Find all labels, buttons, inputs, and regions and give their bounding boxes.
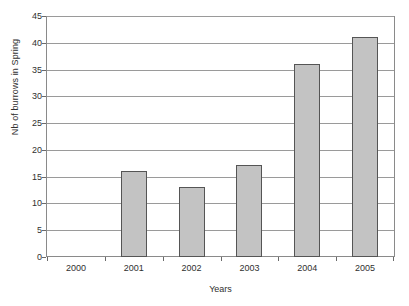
y-tick-label: 25 <box>2 118 42 128</box>
x-tick-mark <box>105 257 106 261</box>
y-tick-label: 20 <box>2 145 42 155</box>
x-tick-mark <box>336 257 337 261</box>
scan-artifact-strip <box>0 298 409 306</box>
x-tick-label-2000: 2000 <box>46 263 106 273</box>
bar-slot-2002 <box>163 17 221 257</box>
bar-2002[interactable] <box>179 187 205 257</box>
x-tick-label-2002: 2002 <box>162 263 222 273</box>
x-tick-mark <box>163 257 164 261</box>
x-tick-mark <box>47 257 48 261</box>
y-tick-mark <box>42 257 46 258</box>
x-tick-mark <box>393 257 394 261</box>
x-axis-tick-marks <box>47 257 394 261</box>
x-tick-label-2003: 2003 <box>219 263 279 273</box>
y-tick-label: 40 <box>2 38 42 48</box>
x-tick-label-2001: 2001 <box>104 263 164 273</box>
y-tick-label: 5 <box>2 225 42 235</box>
y-tick-label: 35 <box>2 65 42 75</box>
y-tick-label: 15 <box>2 172 42 182</box>
bar-chart-figure: Nb of burrows in Spring 0510152025303540… <box>0 0 409 306</box>
bar-slot-2001 <box>105 17 163 257</box>
x-tick-label-2005: 2005 <box>335 263 395 273</box>
bar-2005[interactable] <box>352 37 378 257</box>
x-axis-title: Years <box>46 284 395 294</box>
bar-2001[interactable] <box>121 171 147 257</box>
bar-slot-2005 <box>336 17 394 257</box>
bar-slot-2003 <box>221 17 279 257</box>
bar-slot-2004 <box>278 17 336 257</box>
y-tick-label: 45 <box>2 11 42 21</box>
x-tick-mark <box>278 257 279 261</box>
y-tick-label: 0 <box>2 252 42 262</box>
x-tick-label-2004: 2004 <box>277 263 337 273</box>
bar-series <box>47 17 394 257</box>
y-axis-tick-labels: 051015202530354045 <box>0 16 42 257</box>
bar-2004[interactable] <box>294 64 320 257</box>
bar-slot-2000 <box>47 17 105 257</box>
y-tick-label: 10 <box>2 198 42 208</box>
y-tick-label: 30 <box>2 91 42 101</box>
x-axis-tick-labels: 200020012002200320042005 <box>47 263 394 277</box>
bar-2003[interactable] <box>236 165 262 257</box>
x-tick-mark <box>221 257 222 261</box>
